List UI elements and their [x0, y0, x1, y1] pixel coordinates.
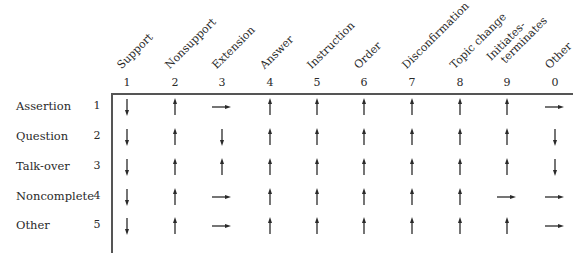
arrow-up-icon [495, 155, 519, 179]
arrow-up-icon [352, 155, 376, 179]
column-number: 9 [497, 76, 517, 89]
arrow-up-icon [305, 214, 329, 238]
arrow-up-icon [400, 185, 424, 209]
arrow-right-icon [495, 185, 519, 209]
column-header-10: Other [543, 40, 574, 71]
arrow-up-icon [210, 155, 234, 179]
row-label-assertion: Assertion [16, 99, 71, 113]
arrow-right-icon [543, 185, 567, 209]
arrow-down-icon [115, 125, 139, 149]
arrow-up-icon [163, 125, 187, 149]
arrow-right-icon [543, 214, 567, 238]
arrow-up-icon [400, 155, 424, 179]
arrow-up-icon [495, 125, 519, 149]
column-number: 7 [402, 76, 422, 89]
row-label-talk-over: Talk-over [16, 159, 70, 173]
arrow-down-icon [115, 155, 139, 179]
arrow-down-icon [543, 125, 567, 149]
row-number: 5 [92, 218, 102, 231]
arrow-up-icon [258, 214, 282, 238]
arrow-up-icon [305, 185, 329, 209]
arrow-up-icon [305, 155, 329, 179]
arrow-down-icon [543, 155, 567, 179]
column-header-4: Answer [258, 34, 295, 71]
arrow-up-icon [495, 95, 519, 119]
arrow-up-icon [400, 125, 424, 149]
arrow-up-icon [163, 185, 187, 209]
arrow-down-icon [115, 95, 139, 119]
arrow-up-icon [495, 214, 519, 238]
row-label-rule [111, 93, 113, 253]
arrow-up-icon [448, 185, 472, 209]
arrow-up-icon [163, 155, 187, 179]
column-number: 0 [545, 76, 565, 89]
arrow-right-icon [210, 214, 234, 238]
row-number: 2 [92, 129, 102, 142]
arrow-down-icon [210, 125, 234, 149]
column-number: 1 [117, 76, 137, 89]
column-header-5: Instruction [305, 20, 356, 71]
arrow-right-icon [543, 95, 567, 119]
arrow-up-icon [400, 95, 424, 119]
column-number: 3 [212, 76, 232, 89]
column-header-3: Extension [210, 24, 257, 71]
arrow-down-icon [115, 214, 139, 238]
arrow-up-icon [400, 214, 424, 238]
arrow-up-icon [258, 125, 282, 149]
arrow-up-icon [258, 185, 282, 209]
column-number: 5 [307, 76, 327, 89]
arrow-right-icon [210, 95, 234, 119]
arrow-up-icon [305, 125, 329, 149]
arrow-up-icon [163, 214, 187, 238]
column-number: 4 [260, 76, 280, 89]
row-label-other: Other [16, 218, 50, 232]
arrow-down-icon [115, 185, 139, 209]
arrow-up-icon [258, 155, 282, 179]
arrow-up-icon [448, 125, 472, 149]
row-number: 3 [92, 159, 102, 172]
arrow-up-icon [258, 95, 282, 119]
arrow-up-icon [352, 214, 376, 238]
row-number: 1 [92, 99, 102, 112]
column-header-6: Order [352, 40, 383, 71]
arrow-up-icon [448, 155, 472, 179]
column-header-1: Support [115, 31, 155, 71]
arrow-up-icon [352, 185, 376, 209]
column-number: 6 [354, 76, 374, 89]
arrow-right-icon [210, 185, 234, 209]
row-number: 4 [92, 189, 102, 202]
arrow-up-icon [448, 95, 472, 119]
arrow-up-icon [352, 95, 376, 119]
arrow-up-icon [163, 95, 187, 119]
row-label-noncomplete: Noncomplete [16, 189, 94, 203]
arrow-up-icon [448, 214, 472, 238]
column-number: 8 [450, 76, 470, 89]
column-number: 2 [165, 76, 185, 89]
arrow-up-icon [352, 125, 376, 149]
arrow-up-icon [305, 95, 329, 119]
row-label-question: Question [16, 129, 68, 143]
